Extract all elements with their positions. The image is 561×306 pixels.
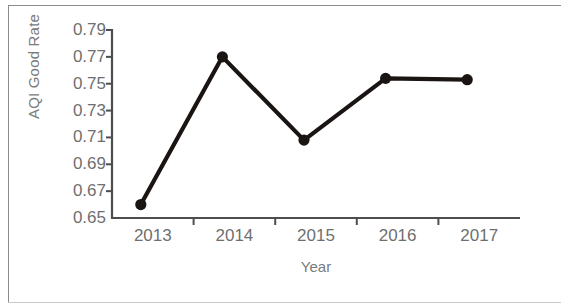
data-line-aqi-good-rate (141, 57, 467, 205)
data-point-marker (380, 73, 391, 84)
data-point-marker (298, 135, 309, 146)
data-point-marker (462, 74, 473, 85)
chart-axes (111, 29, 520, 218)
data-point-markers (135, 51, 473, 210)
chart-plot-area (0, 0, 561, 306)
data-point-marker (217, 51, 228, 62)
data-point-marker (135, 199, 146, 210)
line-chart: AQI Good Rate Year 0.790.770.750.730.710… (0, 0, 561, 306)
